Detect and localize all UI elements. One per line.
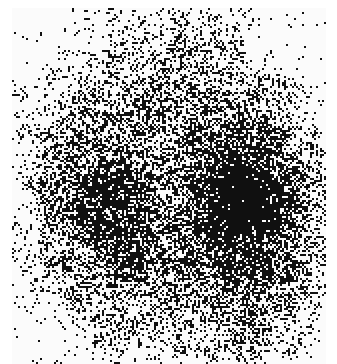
dither-plate	[12, 8, 326, 364]
image-canvas: Scanned noisy dithered bitmap showing tw…	[0, 0, 337, 364]
dithered-noise-bitmap	[12, 8, 326, 364]
